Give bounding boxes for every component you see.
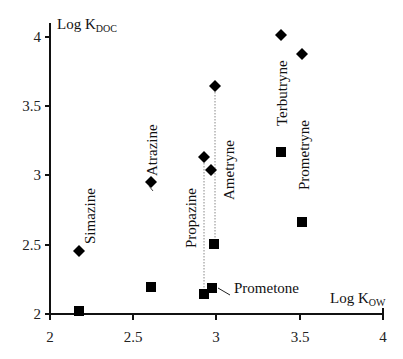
x-axis-title-sub: OW — [369, 297, 386, 308]
label-atrazine: Atrazine — [144, 124, 160, 176]
diamond-marker-atrazine — [145, 176, 157, 188]
square-marker-simazine — [74, 306, 84, 316]
label-terbutryne: Terbutryne — [274, 60, 290, 126]
x-tick-label: 2.5 — [124, 329, 143, 345]
y-tick-label: 4 — [34, 29, 42, 45]
diamond-marker-ametryne — [209, 80, 221, 92]
square-marker-terbutryne — [276, 147, 286, 157]
x-axis-title: Log KOW — [330, 290, 386, 308]
diamond-marker-simazine — [73, 245, 85, 257]
y-axis-title: Log KDOC — [57, 16, 117, 34]
compound-labels: Simazine Atrazine Propazine Ametryne Ter… — [82, 60, 312, 296]
y-tick-label: 2.5 — [22, 237, 41, 253]
x-tick-label: 3 — [212, 329, 220, 345]
label-propazine: Propazine — [183, 188, 199, 248]
square-marker-atrazine — [146, 282, 156, 292]
square-marker-prometryne — [297, 217, 307, 227]
x-axis-title-main: Log K — [330, 290, 369, 306]
x-tick-label: 3.5 — [291, 329, 310, 345]
y-axis-title-sub: DOC — [96, 23, 117, 34]
y-tick-label: 3.5 — [22, 98, 41, 114]
x-tick-label: 4 — [379, 329, 387, 345]
label-prometone: Prometone — [234, 280, 299, 296]
diamond-marker-terbutryne — [275, 29, 287, 41]
diamond-marker-propazine — [198, 151, 210, 163]
label-ametryne: Ametryne — [221, 140, 237, 200]
label-simazine: Simazine — [82, 188, 98, 244]
square-marker-ametryne — [209, 239, 219, 249]
prometone-leader-line — [218, 288, 230, 295]
y-axis-title-main: Log K — [57, 16, 96, 32]
diamond-marker-prometryne — [296, 48, 308, 60]
y-tick-label: 3 — [34, 167, 42, 183]
label-prometryne: Prometryne — [296, 120, 312, 190]
scatter-chart: 4 3.5 3 2.5 2 2 2.5 3 3.5 4 Log KDOC Log… — [0, 0, 403, 359]
x-tick-label: 2 — [46, 329, 54, 345]
connectors — [204, 86, 215, 294]
square-marker-prometone — [207, 283, 217, 293]
y-tick-label: 2 — [34, 306, 42, 322]
